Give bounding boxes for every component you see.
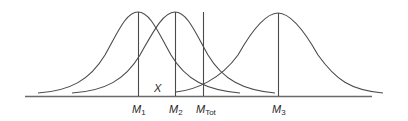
distribution-curve-2 — [72, 12, 275, 93]
label-m2: M2 — [169, 104, 183, 117]
label-mtot: MTot — [196, 104, 216, 117]
region-label-x: X — [154, 83, 161, 94]
label-m3: M3 — [272, 104, 286, 117]
label-m1: M1 — [132, 104, 146, 117]
